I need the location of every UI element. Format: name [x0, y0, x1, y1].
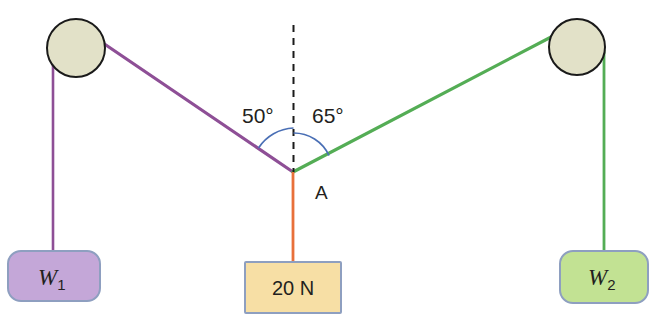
right-angle-arc — [294, 133, 330, 156]
right-pulley-icon — [549, 19, 605, 75]
left-angle-arc — [259, 128, 294, 148]
pulley-diagram: 50° 65° A W1 W2 20 N — [0, 0, 654, 318]
left-weight-symbol: W — [38, 265, 59, 290]
junction-point-label: A — [315, 182, 328, 203]
center-force-label: 20 N — [272, 277, 314, 299]
left-weight-subscript: 1 — [57, 276, 65, 293]
right-angle-label: 65° — [312, 104, 344, 127]
right-weight-symbol: W — [588, 265, 609, 290]
left-angle-label: 50° — [242, 104, 274, 127]
left-pulley-icon — [47, 19, 105, 77]
right-weight-subscript: 2 — [607, 276, 615, 293]
diagram-canvas: 50° 65° A W1 W2 20 N — [0, 0, 654, 318]
